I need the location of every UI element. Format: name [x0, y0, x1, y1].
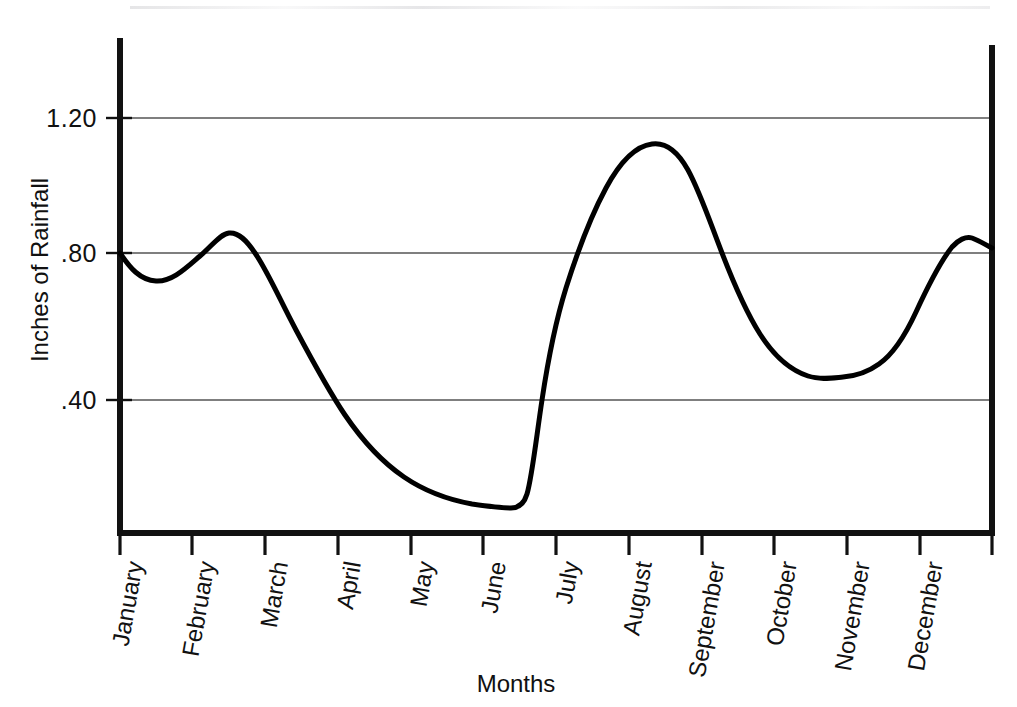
x-tick-label-june: June [475, 559, 511, 615]
chart-canvas: 1.20 .80 .40 Inches of Rainfall January … [0, 0, 1017, 707]
x-tick-label-july: July [550, 559, 584, 606]
x-tick-label-november: November [829, 559, 875, 673]
y-tick-label-0-80: .80 [61, 239, 97, 267]
rainfall-curve [120, 144, 992, 508]
axis-spines [118, 38, 994, 536]
x-tick-label-december: December [902, 559, 948, 673]
y-axis-title: Inches of Rainfall [26, 178, 53, 362]
x-axis-title: Months [477, 670, 556, 697]
x-tick-label-january: January [107, 559, 148, 648]
gridlines [120, 118, 992, 400]
x-tick-label-april: April [331, 559, 366, 611]
y-tick-label-1-20: 1.20 [46, 104, 97, 132]
x-axis-ticks [120, 533, 992, 555]
x-tick-label-september: September [683, 559, 730, 679]
y-tick-labels: 1.20 .80 .40 [46, 104, 97, 414]
rainfall-line-chart: 1.20 .80 .40 Inches of Rainfall January … [0, 0, 1017, 707]
x-tick-label-march: March [255, 559, 293, 629]
x-tick-labels: January February March April May June Ju… [107, 559, 948, 680]
x-tick-label-october: October [761, 559, 802, 648]
x-tick-label-august: August [617, 559, 657, 638]
y-tick-label-0-40: .40 [61, 386, 97, 414]
x-tick-label-may: May [404, 559, 438, 608]
x-tick-label-february: February [177, 559, 220, 658]
